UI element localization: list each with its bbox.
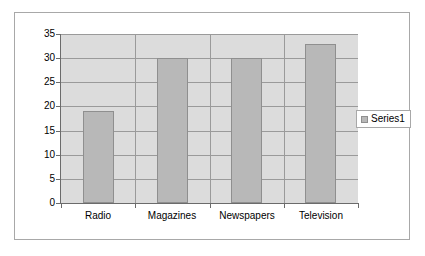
bar-magazines[interactable] <box>157 58 188 203</box>
chart-legend[interactable]: Series1 <box>356 110 411 128</box>
category-separator-1 <box>135 34 136 203</box>
y-tick-mark-25 <box>56 82 60 83</box>
plot-area <box>61 34 358 203</box>
y-tick-mark-20 <box>56 106 60 107</box>
legend-label-series1: Series1 <box>371 114 405 124</box>
x-category-label-television: Television <box>284 210 358 222</box>
y-tick-mark-15 <box>56 131 60 132</box>
y-tick-label-25: 25 <box>27 77 55 87</box>
legend-swatch-series1 <box>361 116 368 123</box>
y-tick-mark-10 <box>56 155 60 156</box>
y-tick-mark-30 <box>56 58 60 59</box>
y-tick-mark-5 <box>56 179 60 180</box>
y-tick-label-30: 30 <box>27 53 55 63</box>
y-tick-label-20: 20 <box>27 101 55 111</box>
y-tick-label-10: 10 <box>27 150 55 160</box>
category-separator-2 <box>210 34 211 203</box>
x-tick-mark-3 <box>284 204 285 208</box>
x-tick-mark-0 <box>61 204 62 208</box>
y-tick-mark-35 <box>56 34 60 35</box>
x-category-label-newspapers: Newspapers <box>210 210 284 222</box>
x-category-label-magazines: Magazines <box>135 210 209 222</box>
y-axis-tick-labels: 35302520151050 <box>21 13 55 241</box>
chart-frame: 35302520151050 RadioMagazinesNewspapersT… <box>14 12 410 240</box>
x-tick-mark-2 <box>210 204 211 208</box>
bar-radio[interactable] <box>83 111 114 203</box>
y-tick-label-0: 0 <box>27 198 55 208</box>
x-tick-mark-4 <box>358 204 359 208</box>
category-separator-3 <box>284 34 285 203</box>
y-tick-label-35: 35 <box>27 29 55 39</box>
y-tick-label-15: 15 <box>27 126 55 136</box>
y-axis-line <box>60 34 61 204</box>
bar-television[interactable] <box>305 44 336 203</box>
y-tick-mark-0 <box>56 203 60 204</box>
bar-newspapers[interactable] <box>231 58 262 203</box>
x-tick-mark-1 <box>135 204 136 208</box>
x-category-label-radio: Radio <box>61 210 135 222</box>
y-tick-label-5: 5 <box>27 174 55 184</box>
